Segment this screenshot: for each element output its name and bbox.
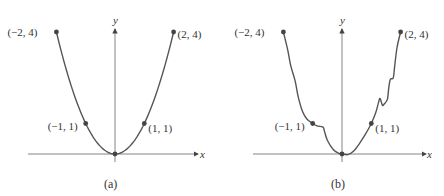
caption-a: (a) (104, 177, 117, 191)
point-label-b-0: (−2, 4) (234, 26, 264, 39)
y-axis-label-b: y (339, 14, 345, 26)
data-point-b-4 (398, 30, 403, 35)
point-label-a-0: (−2, 4) (7, 26, 37, 39)
caption-b: (b) (331, 177, 345, 191)
data-point-b-3 (369, 121, 374, 126)
x-axis-label-b: x (426, 148, 432, 160)
data-point-b-0 (281, 30, 286, 35)
figure: x y (−2, 4)(−1, 1)(1, 1)(2, 4) (a) x y (… (0, 0, 444, 196)
point-label-a-1: (−1, 1) (48, 120, 78, 133)
point-label-b-4: (2, 4) (405, 28, 429, 41)
x-axis-label-a: x (199, 148, 205, 160)
data-point-a-0 (54, 30, 59, 35)
data-point-a-1 (83, 121, 88, 126)
y-axis-label-a: y (112, 14, 118, 26)
point-label-a-4: (2, 4) (178, 28, 202, 41)
data-point-b-2 (340, 152, 345, 157)
panel-a: x y (−2, 4)(−1, 1)(1, 1)(2, 4) (a) (7, 14, 205, 191)
point-label-a-3: (1, 1) (148, 122, 172, 135)
data-point-a-4 (171, 30, 176, 35)
data-point-a-3 (142, 121, 147, 126)
point-label-b-1: (−1, 1) (275, 120, 305, 133)
panel-b: x y (−2, 4)(−1, 1)(1, 1)(2, 4) (b) (234, 14, 432, 191)
data-point-b-1 (310, 121, 315, 126)
point-label-b-3: (1, 1) (375, 122, 399, 135)
data-point-a-2 (113, 152, 118, 157)
